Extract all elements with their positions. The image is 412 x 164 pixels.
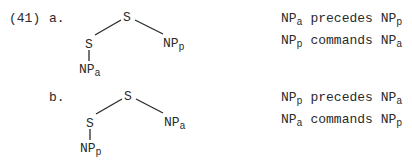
example-number: (41) [9,12,40,25]
tree-a-root-s: S [123,11,131,24]
item-label-b: b. [49,91,65,104]
edge-b-root-left [96,99,122,114]
tree-a-bottom-np: NPa [79,63,101,76]
statement-b-2: NPa commands NPp [281,113,402,126]
statement-b-1: NPp precedes NPa [281,91,402,104]
tree-a-right-np: NPp [163,37,185,50]
tree-b-bottom-np: NPp [80,142,102,155]
edge-b-root-right [136,99,163,113]
edge-a-root-right [135,20,163,34]
statement-a-2: NPp commands NPa [281,34,402,47]
tree-b-right-np: NPa [164,116,186,129]
statement-a-1: NPa precedes NPp [281,12,402,25]
edge-a-root-left [95,20,121,35]
item-label-a: a. [49,12,65,25]
tree-b-root-s: S [124,90,132,103]
tree-b-left-s: S [86,117,94,130]
tree-a-left-s: S [85,38,93,51]
